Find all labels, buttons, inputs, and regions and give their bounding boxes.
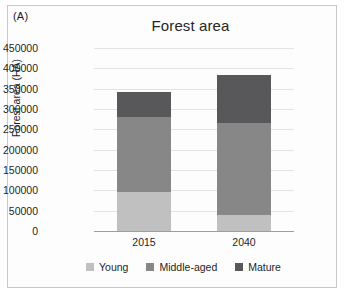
- legend-label: Young: [99, 261, 128, 273]
- bar-segment[interactable]: [217, 215, 271, 231]
- legend-label: Mature: [248, 261, 281, 273]
- bar-segment[interactable]: [217, 75, 271, 123]
- chart-title: Forest area: [0, 17, 347, 34]
- y-axis-tick-label: 100000: [0, 184, 38, 196]
- legend-swatch-icon: [235, 263, 243, 271]
- gridline: [94, 48, 294, 49]
- y-axis-tick-label: 0: [0, 225, 38, 237]
- y-axis-tick-label: 50000: [0, 205, 38, 217]
- plot-area: [94, 48, 294, 231]
- stacked-bar[interactable]: [117, 92, 171, 231]
- legend-swatch-icon: [86, 263, 94, 271]
- y-axis-tick-label: 250000: [0, 123, 38, 135]
- x-axis-tick-label: 2040: [204, 236, 284, 248]
- y-axis-tick-label: 350000: [0, 83, 38, 95]
- y-axis-title: Forest area (HA): [10, 43, 22, 153]
- y-axis-tick-label: 450000: [0, 42, 38, 54]
- legend-item[interactable]: Young: [86, 261, 128, 273]
- legend-swatch-icon: [146, 263, 154, 271]
- legend-label: Middle-aged: [159, 261, 217, 273]
- bar-segment[interactable]: [117, 117, 171, 192]
- figure-container: (A) Forest area Forest area (HA) 4500004…: [0, 0, 347, 298]
- x-axis-line: [94, 231, 294, 232]
- gridline: [94, 68, 294, 69]
- legend-item[interactable]: Middle-aged: [146, 261, 217, 273]
- y-axis-tick-label: 150000: [0, 164, 38, 176]
- legend-item[interactable]: Mature: [235, 261, 281, 273]
- y-axis-tick-label: 200000: [0, 144, 38, 156]
- chart-legend: YoungMiddle-agedMature: [0, 261, 347, 273]
- y-axis-tick-label: 400000: [0, 62, 38, 74]
- x-axis-tick-label: 2015: [104, 236, 184, 248]
- bar-segment[interactable]: [217, 123, 271, 215]
- bar-segment[interactable]: [117, 192, 171, 231]
- y-axis-tick-label: 300000: [0, 103, 38, 115]
- bar-segment[interactable]: [117, 92, 171, 117]
- stacked-bar[interactable]: [217, 75, 271, 231]
